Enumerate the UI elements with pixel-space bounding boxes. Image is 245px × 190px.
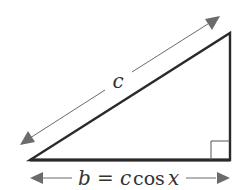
arrowhead-right — [217, 172, 230, 184]
arrowhead-left — [30, 172, 43, 184]
arrowhead-up-right — [205, 16, 220, 30]
hypotenuse-label: c — [112, 69, 123, 93]
base-label-b: b — [78, 166, 91, 190]
arrowhead-down-left — [20, 131, 35, 145]
base-label-c: c — [120, 166, 131, 190]
base-label-x: x — [168, 166, 179, 190]
base-label: b = c cos x — [78, 166, 179, 190]
right-angle-marker — [211, 141, 230, 160]
base-label-cos: cos — [133, 167, 165, 189]
triangle — [30, 33, 230, 160]
base-label-equals: = — [97, 166, 114, 190]
right-triangle-diagram: c b = c cos x — [0, 0, 245, 190]
